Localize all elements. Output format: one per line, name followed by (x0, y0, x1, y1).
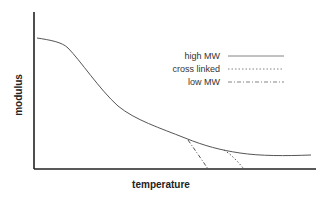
legend: high MW cross linked low MW (172, 51, 284, 87)
x-axis-label: temperature (132, 179, 190, 190)
legend-label-high-mw: high MW (184, 51, 220, 61)
series-low-mw (188, 140, 208, 169)
chart: high MW cross linked low MW temperature … (0, 0, 331, 203)
y-axis-label: modulus (13, 74, 24, 116)
legend-label-low-mw: low MW (188, 77, 221, 87)
legend-label-cross-linked: cross linked (172, 64, 220, 74)
